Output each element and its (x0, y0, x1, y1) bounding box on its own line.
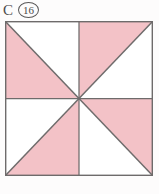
pinwheel-svg (5, 21, 153, 176)
page-root: C 16 (0, 0, 159, 194)
figure-label: C 16 (3, 0, 39, 20)
label-letter: C (3, 3, 13, 18)
pinwheel-figure (5, 21, 153, 176)
label-circled-number: 16 (18, 2, 39, 18)
label-number: 16 (23, 5, 34, 16)
